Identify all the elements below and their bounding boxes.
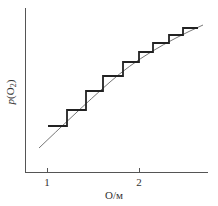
chart: 1 2 O/м p(O2) [0, 0, 218, 206]
x-tick-label-1: 1 [44, 176, 50, 188]
x-tick-label-2: 2 [136, 176, 142, 188]
smooth-curve [39, 25, 203, 148]
svg-text:p(O2): p(O2) [4, 79, 18, 105]
x-axis-label: O/м [105, 189, 123, 201]
y-axis-label: p(O2) [4, 79, 18, 105]
step-curve [48, 28, 198, 126]
